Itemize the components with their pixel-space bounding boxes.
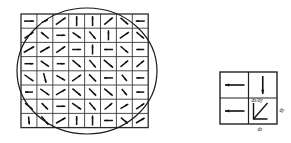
label-dx: dx xyxy=(258,126,264,132)
label-dy: dy xyxy=(280,107,286,113)
figure-container: dx/dy dy dx xyxy=(0,0,291,143)
figure-svg: dx/dy dy dx xyxy=(0,0,291,143)
derivative-legend: dx/dy dy dx xyxy=(220,72,285,132)
label-dx-over-dy: dx/dy xyxy=(252,97,264,103)
vector-field-grid xyxy=(21,14,148,128)
grid-lines xyxy=(21,14,148,128)
